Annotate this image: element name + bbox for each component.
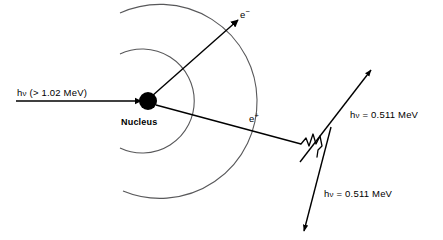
incident-photon-label: hν (> 1.02 MeV) <box>17 88 87 98</box>
annihilation-photon-down-energy: = 0.511 MeV <box>334 188 392 199</box>
nucleus-label: Nucleus <box>121 118 157 127</box>
nucleus-dot <box>139 92 157 110</box>
electron-trajectory <box>152 20 238 96</box>
positron-label: e+ <box>249 112 259 124</box>
electron-label: e− <box>240 8 250 20</box>
annihilation-photon-down-label: hν = 0.511 MeV <box>324 189 392 199</box>
pair-production-diagram: hν (> 1.02 MeV) Nucleus e− e+ hν = 0.511… <box>0 0 443 240</box>
positron-charge-sign: + <box>254 111 259 120</box>
incident-photon-energy: (> 1.02 MeV) <box>27 87 87 98</box>
positron-trajectory <box>156 105 301 144</box>
annihilation-photon-up-energy: = 0.511 MeV <box>360 109 418 120</box>
annihilation-photon-up-label: hν = 0.511 MeV <box>350 110 418 120</box>
electron-charge-sign: − <box>245 7 250 16</box>
diagram-canvas <box>0 0 443 240</box>
